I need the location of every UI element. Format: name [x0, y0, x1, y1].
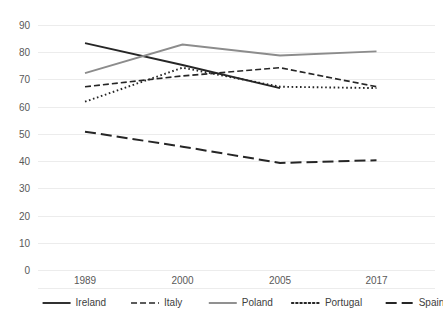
- x-tick-label: 2017: [365, 275, 388, 286]
- x-tick-label: 1989: [74, 275, 97, 286]
- y-tick-label: 60: [19, 102, 31, 113]
- y-tick-label: 10: [19, 238, 31, 249]
- y-tick-label: 90: [19, 20, 31, 31]
- legend-label-portugal: Portugal: [325, 297, 362, 308]
- y-tick-label: 40: [19, 156, 31, 167]
- y-tick-label: 30: [19, 183, 31, 194]
- y-tick-label: 20: [19, 211, 31, 222]
- legend-label-italy: Italy: [164, 297, 182, 308]
- y-tick-label: 0: [24, 265, 30, 276]
- line-chart: 0102030405060708090 1989200020052017 Ire…: [0, 0, 443, 322]
- legend-label-poland: Poland: [242, 297, 273, 308]
- y-tick-label: 70: [19, 74, 31, 85]
- y-tick-label: 50: [19, 129, 31, 140]
- legend-label-ireland: Ireland: [76, 297, 107, 308]
- x-tick-label: 2005: [269, 275, 292, 286]
- y-tick-label: 80: [19, 47, 31, 58]
- legend-label-spain: Spain: [419, 297, 443, 308]
- x-tick-label: 2000: [171, 275, 194, 286]
